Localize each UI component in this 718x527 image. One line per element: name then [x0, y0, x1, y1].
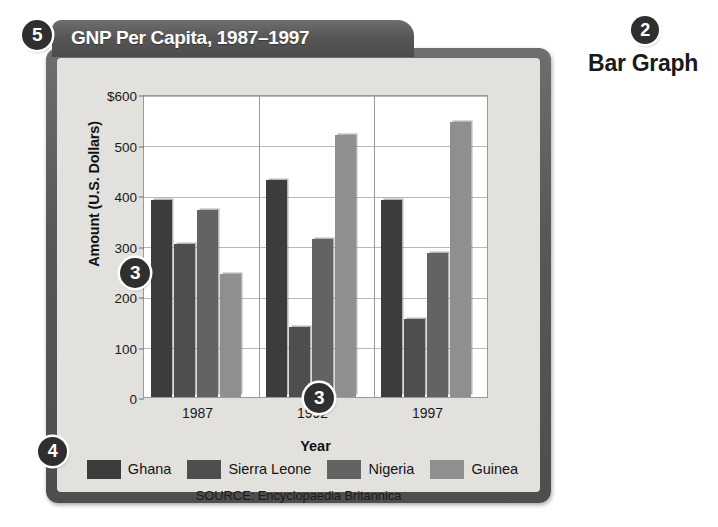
legend-swatch-ghana: [87, 460, 121, 479]
legend: GhanaSierra LeoneNigeriaGuinea: [75, 456, 530, 482]
legend-swatch-sierra-leone: [187, 460, 221, 479]
legend-label: Ghana: [128, 461, 172, 477]
bar-nigeria-1992: [312, 239, 333, 397]
callout-badge-4: 4: [38, 437, 67, 466]
legend-item: Guinea: [430, 460, 518, 479]
y-axis-tick-mark: [139, 298, 144, 299]
group-separator: [259, 96, 260, 397]
legend-item: Nigeria: [327, 460, 414, 479]
x-axis-tick-label: 1997: [412, 405, 443, 421]
bar-guinea-1997: [450, 122, 471, 397]
source-note: SOURCE: Encyclopaedia Britannica: [57, 488, 540, 503]
bar-ghana-1997: [381, 200, 402, 397]
x-axis-label: Year: [143, 438, 488, 454]
callout-badge-5: 5: [22, 20, 52, 50]
y-axis-tick-mark: [139, 96, 144, 97]
legend-item: Sierra Leone: [187, 460, 311, 479]
y-axis-tick-label: 400: [114, 190, 137, 205]
plot-area: 0100200300400500$600198719921997: [143, 95, 488, 398]
y-axis-tick-mark: [139, 399, 144, 400]
x-axis-tick-label: 1987: [182, 405, 213, 421]
graph-type-caption: Bar Graph: [568, 50, 718, 77]
legend-label: Nigeria: [368, 461, 414, 477]
bar-ghana-1992: [266, 180, 287, 397]
chart-title: GNP Per Capita, 1987–1997: [71, 27, 309, 49]
y-axis-tick-mark: [139, 197, 144, 198]
callout-badge-3-horizontal-axis: 3: [304, 383, 334, 413]
bar-nigeria-1997: [427, 253, 448, 397]
group-separator: [374, 96, 375, 397]
gridline: [144, 146, 487, 147]
gridline: [144, 197, 487, 198]
callout-badge-3-vertical-axis: 3: [120, 258, 150, 288]
y-axis-label: Amount (U.S. Dollars): [86, 99, 102, 289]
y-axis-tick-label: 500: [114, 139, 137, 154]
figure-card: Amount (U.S. Dollars) 0100200300400500$6…: [46, 20, 551, 503]
legend-label: Sierra Leone: [228, 461, 311, 477]
legend-item: Ghana: [87, 460, 172, 479]
y-axis-tick-label: $600: [107, 89, 137, 104]
bar-guinea-1987: [220, 274, 241, 397]
y-axis-tick-mark: [139, 146, 144, 147]
y-axis-tick-mark: [139, 247, 144, 248]
figure-title-tab: GNP Per Capita, 1987–1997: [52, 20, 414, 57]
legend-swatch-nigeria: [327, 460, 361, 479]
y-axis-tick-label: 200: [114, 291, 137, 306]
bar-nigeria-1987: [197, 210, 218, 397]
gridline: [144, 96, 487, 97]
bar-sierra-leone-1997: [404, 319, 425, 397]
bar-ghana-1987: [151, 200, 172, 397]
y-axis-tick-label: 0: [129, 392, 137, 407]
y-axis-tick-label: 100: [114, 341, 137, 356]
legend-swatch-guinea: [430, 460, 464, 479]
bar-guinea-1992: [335, 135, 356, 397]
bar-sierra-leone-1987: [174, 244, 195, 397]
bar-sierra-leone-1992: [289, 327, 310, 397]
legend-label: Guinea: [471, 461, 518, 477]
y-axis-tick-label: 300: [114, 240, 137, 255]
y-axis-tick-mark: [139, 348, 144, 349]
callout-badge-2: 2: [631, 16, 659, 44]
